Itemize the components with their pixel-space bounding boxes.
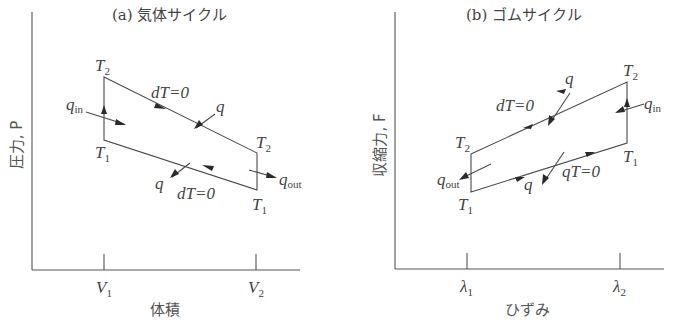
q-in-arrowhead: [115, 119, 126, 125]
arrow-top-edge-2: [523, 124, 533, 129]
isotherm-top-label: dT=0: [151, 83, 189, 102]
corner-top-right-label: T2: [256, 133, 271, 154]
q-out-label: qout: [279, 170, 302, 190]
x-axis-label: ひずみ: [505, 301, 550, 319]
x-tick-label-v1: V1: [96, 278, 112, 299]
panel-a-gas-cycle: (a) 気体サイクル 圧力, P V1 V2 体積 qin q q: [8, 6, 302, 319]
corner-bottom-left-label: T1: [458, 195, 473, 216]
isotherm-bottom-label: qT=0: [562, 162, 600, 181]
arrow-top-edge-1: [556, 89, 566, 94]
x-axis-label: 体積: [150, 301, 180, 319]
corner-bottom-right-label: T1: [252, 195, 267, 216]
isotherm-bottom-label: dT=0: [177, 184, 215, 203]
q-bottom-label: q: [524, 175, 533, 194]
corner-bottom-right-label: T1: [623, 147, 638, 168]
q-bottom-arrowhead: [170, 169, 179, 178]
x-tick-label-lambda1: λ1: [459, 277, 473, 298]
x-tick-label-v2: V2: [248, 278, 264, 299]
q-out-label: qout: [437, 170, 460, 190]
q-in-arrowhead: [615, 106, 625, 113]
q-bottom-label: q: [155, 174, 164, 193]
y-axis-label: 圧力, P: [8, 121, 26, 170]
panel-b-rubber-cycle: (b) ゴムサイクル 収縮力, F λ1 λ2 ひずみ qin q q: [371, 6, 664, 319]
arrow-up-left-edge: [101, 105, 107, 114]
x-tick-label-lambda2: λ2: [612, 277, 626, 298]
panel-a-title: (a) 気体サイクル: [112, 6, 227, 24]
q-out-arrowhead: [266, 172, 277, 178]
q-in-label: qin: [66, 95, 84, 115]
arrow-up-right-edge: [624, 98, 630, 107]
arrow-bottom-edge: [202, 165, 214, 171]
panel-b-title: (b) ゴムサイクル: [466, 6, 582, 24]
q-top-label: q: [565, 69, 574, 88]
corner-bottom-left-label: T1: [95, 143, 110, 164]
q-out-arrowhead: [459, 172, 469, 180]
corner-top-left-label: T2: [455, 133, 470, 154]
corner-top-left-label: T2: [95, 56, 110, 77]
arrow-top-edge: [154, 103, 166, 109]
cycle-path: [471, 82, 627, 192]
isotherm-top-label: dT=0: [496, 96, 534, 115]
q-top-arrowhead: [194, 120, 203, 129]
corner-top-right-label: T2: [623, 61, 638, 82]
q-in-label: qin: [644, 94, 662, 114]
q-top-label: q: [216, 97, 225, 116]
y-axis-label: 収縮力, F: [371, 113, 389, 176]
